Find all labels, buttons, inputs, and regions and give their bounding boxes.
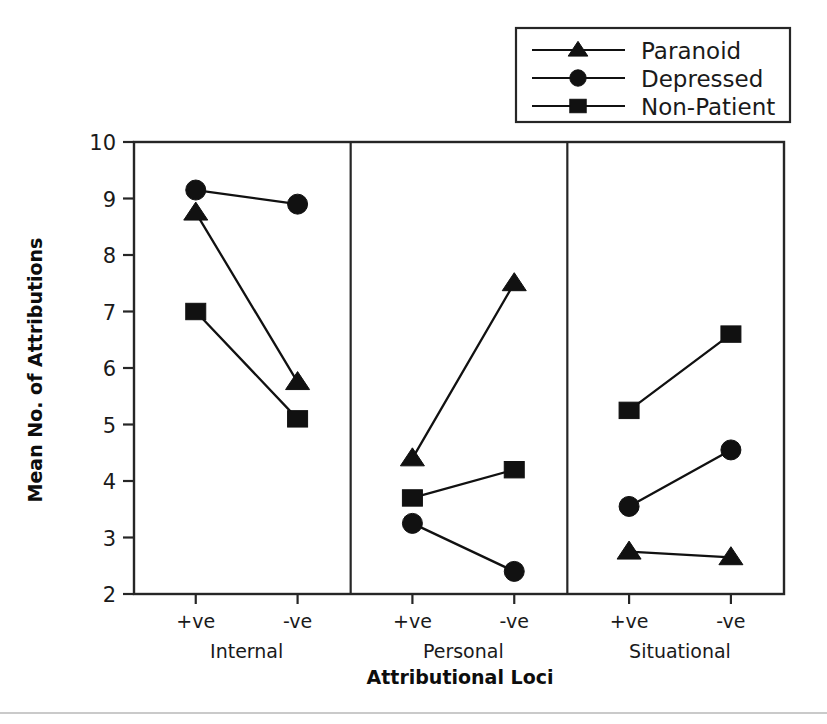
- panel-label-internal: Internal: [210, 640, 283, 662]
- triangle-marker: [617, 541, 641, 559]
- series-segment: [412, 523, 514, 571]
- attributions-line-chart: ParanoidDepressedNon-Patient 2345678910 …: [0, 0, 827, 724]
- data-series-layer: [184, 180, 743, 581]
- series-segment: [196, 213, 298, 383]
- series-depressed: [186, 180, 741, 581]
- y-tick-label: 5: [103, 414, 116, 438]
- panel-label-situational: Situational: [629, 640, 731, 662]
- circle-marker: [504, 561, 524, 581]
- x-axis-ticks: [196, 594, 731, 604]
- series-segment: [412, 283, 514, 458]
- x-axis-title: Attributional Loci: [367, 666, 554, 688]
- legend-label: Depressed: [641, 66, 763, 92]
- y-tick-label: 10: [89, 131, 116, 155]
- triangle-marker: [184, 202, 208, 220]
- triangle-marker: [400, 448, 424, 466]
- series-segment: [196, 190, 298, 204]
- square-marker: [402, 490, 422, 506]
- square-marker: [186, 303, 206, 319]
- square-marker: [721, 326, 741, 342]
- circle-marker: [619, 496, 639, 516]
- y-tick-label: 2: [103, 583, 116, 607]
- x-tick-label: -ve: [283, 610, 312, 632]
- series-segment: [412, 470, 514, 498]
- y-tick-label: 8: [103, 244, 116, 268]
- y-tick-label: 6: [103, 357, 116, 381]
- circle-marker: [721, 440, 741, 460]
- square-marker: [570, 99, 586, 112]
- legend-label: Non-Patient: [641, 94, 775, 120]
- y-tick-label: 7: [103, 301, 116, 325]
- legend-label: Paranoid: [641, 38, 741, 64]
- series-segment: [629, 334, 731, 410]
- x-tick-label: +ve: [393, 610, 432, 632]
- square-marker: [504, 462, 524, 478]
- y-tick-label: 9: [103, 188, 116, 212]
- y-axis-ticks: 2345678910: [89, 131, 134, 607]
- circle-marker: [570, 70, 586, 86]
- y-axis-title: Mean No. of Attributions: [24, 238, 46, 503]
- panel-label-personal: Personal: [423, 640, 504, 662]
- square-marker: [288, 411, 308, 427]
- series-segment: [196, 312, 298, 419]
- series-segment: [629, 450, 731, 507]
- triangle-marker: [502, 273, 526, 291]
- series-paranoid: [184, 202, 743, 565]
- x-tick-label: +ve: [176, 610, 215, 632]
- series-segment: [629, 552, 731, 558]
- x-tick-label: -ve: [500, 610, 529, 632]
- x-axis-tick-labels: +ve-ve+ve-ve+ve-ve: [176, 610, 745, 632]
- figure-root: ParanoidDepressedNon-Patient 2345678910 …: [0, 0, 827, 724]
- triangle-marker: [286, 372, 310, 390]
- x-tick-label: +ve: [610, 610, 649, 632]
- legend: ParanoidDepressedNon-Patient: [516, 28, 790, 122]
- y-tick-label: 4: [103, 470, 116, 494]
- circle-marker: [186, 180, 206, 200]
- square-marker: [619, 402, 639, 418]
- circle-marker: [402, 513, 422, 533]
- x-tick-label: -ve: [716, 610, 745, 632]
- panel-labels: InternalPersonalSituational: [210, 640, 731, 662]
- circle-marker: [288, 194, 308, 214]
- y-tick-label: 3: [103, 527, 116, 551]
